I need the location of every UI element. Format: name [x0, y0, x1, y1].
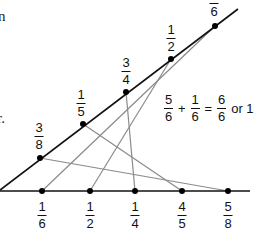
dot-4-5: [179, 188, 185, 194]
label-3-8: 38: [35, 121, 44, 152]
equals-sign: =: [205, 101, 213, 116]
plus-sign: +: [178, 101, 186, 116]
eq-fraction-1-6: 16: [191, 93, 200, 124]
equation-tail: or 1: [231, 101, 253, 116]
label-1-6: 16: [38, 200, 47, 231]
dot-3-4: [123, 89, 129, 95]
label-3-4: 34: [122, 56, 131, 87]
dot-5-8: [225, 188, 231, 194]
label-1-5: 15: [77, 88, 86, 119]
dot-1-2-lower: [87, 188, 93, 194]
label-4-5: 45: [178, 200, 187, 231]
eq-fraction-5-6: 56: [164, 93, 173, 124]
label-1-2-lower: 12: [86, 200, 95, 231]
dot-1-2-upper: [168, 56, 174, 62]
label-1-4: 14: [131, 200, 140, 231]
label-1-2-upper: 12: [167, 23, 176, 54]
dot-1-5: [80, 121, 86, 127]
dot-3-8: [37, 155, 43, 161]
text-fragment-top: n: [0, 8, 6, 25]
text-fragment-mid: r.: [0, 110, 5, 127]
dot-1-4: [132, 188, 138, 194]
dot-1-6: [39, 188, 45, 194]
eq-fraction-6-6: 66: [217, 93, 226, 124]
sum-equation: 56 + 16 = 66 or 1: [164, 93, 254, 124]
label-5-8: 58: [224, 200, 233, 231]
dot-5-6: [212, 23, 218, 29]
label-5-6: 56: [210, 0, 219, 19]
